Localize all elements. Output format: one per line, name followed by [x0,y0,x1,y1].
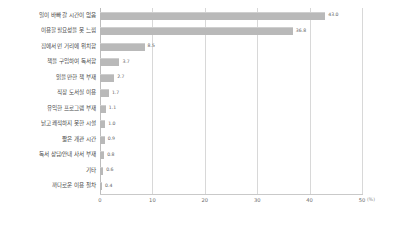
gridline [362,8,363,194]
bar [100,12,325,20]
bar-row: 1.7 [100,89,119,97]
bar [100,43,145,51]
bar-row: 0.8 [100,151,115,159]
bar-value-label: 3.7 [122,60,129,65]
bar-row: 43.0 [100,12,339,20]
value-tick-label: 40 [306,198,313,203]
bar-row: 0.4 [100,182,112,190]
category-label: 유익한 프로그램 부재 [0,106,96,112]
bar [100,58,119,66]
category-axis-labels: 일이 바빠 갈 시간이 없음이용할 필요성을 못 느낌집에서 먼 거리에 위치함… [0,8,96,194]
bar-chart: 일이 바빠 갈 시간이 없음이용할 필요성을 못 느낌집에서 먼 거리에 위치함… [0,0,401,233]
bar [100,27,293,35]
bar-row: 36.8 [100,27,306,35]
bar [100,105,106,113]
value-tick-label: 20 [201,198,208,203]
bar-row: 2.7 [100,74,124,82]
bar [100,74,114,82]
value-tick-label: 10 [149,198,156,203]
bar-value-label: 1.1 [109,106,116,111]
bar-value-label: 0.4 [105,184,112,189]
category-label: 까다로운 이용 절차 [0,183,96,189]
value-axis-tick-labels: 01020304050(%) [100,198,380,212]
category-label: 일이 바빠 갈 시간이 없음 [0,13,96,19]
category-label: 독서 상담/안내 사서 부재 [0,152,96,158]
bar [100,167,103,175]
bar-rows: 43.036.88.53.72.71.71.11.00.90.80.60.4 [100,8,362,194]
category-label: 직장 도서실 이용 [0,90,96,96]
bar-row: 0.9 [100,136,115,144]
category-label: 이용할 필요성을 못 느낌 [0,28,96,34]
category-label: 읽을 만한 책 부재 [0,75,96,81]
bar [100,89,109,97]
plot-area: 43.036.88.53.72.71.71.11.00.90.80.60.4 [100,8,362,194]
bar-value-label: 36.8 [296,29,306,34]
bar-row: 1.1 [100,105,116,113]
bar-value-label: 1.7 [112,91,119,96]
bar [100,151,104,159]
bar [100,182,102,190]
bar-row: 0.6 [100,167,113,175]
bar-value-label: 0.6 [106,168,113,173]
category-label: 기타 [0,168,96,174]
category-label: 낡고 쾌적하지 못한 시설 [0,121,96,127]
value-tick-label: 50 [359,198,366,203]
value-tick-label: 0 [98,198,101,203]
category-axis-line [100,194,363,195]
category-label: 책을 구입하여 독서함 [0,59,96,65]
category-label: 짧은 개관 시간 [0,137,96,143]
category-label: 집에서 먼 거리에 위치함 [0,44,96,50]
bar-row: 1.0 [100,120,116,128]
bar [100,120,105,128]
bar-value-label: 43.0 [328,13,338,18]
bar-value-label: 8.5 [148,44,155,49]
value-tick-label: 30 [254,198,261,203]
bar-value-label: 0.9 [108,137,115,142]
bar-value-label: 2.7 [117,75,124,80]
bar-row: 8.5 [100,43,155,51]
bar-row: 3.7 [100,58,130,66]
bar-value-label: 1.0 [108,122,115,127]
bar [100,136,105,144]
bar-value-label: 0.8 [107,153,114,158]
value-axis-unit-label: (%) [367,198,375,203]
